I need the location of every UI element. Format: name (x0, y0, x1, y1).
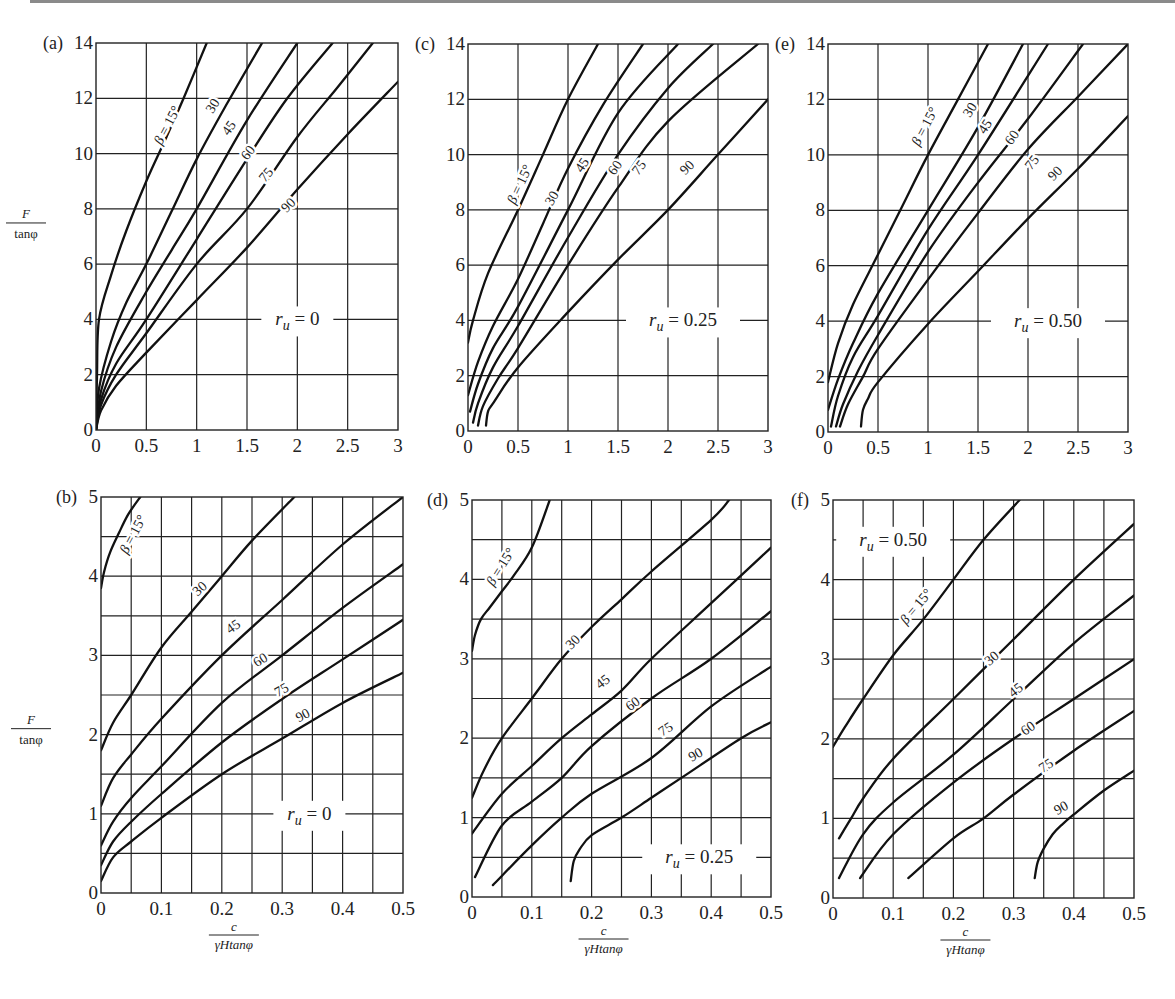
curve-beta-75 (840, 44, 1128, 427)
x-tick-label: 0.3 (270, 898, 294, 919)
curve-label: 75 (1036, 755, 1056, 775)
y-tick-label: 12 (446, 88, 465, 109)
svg-text:γHtanφ: γHtanφ (584, 941, 622, 956)
y-tick-label: 2 (456, 365, 466, 386)
curve-label: 30 (203, 96, 223, 116)
gridlines (828, 44, 1128, 432)
curve-labels: β = 15°3045607590 (483, 545, 705, 764)
y-tick-label: 4 (460, 568, 470, 589)
x-tick-label: 2 (293, 435, 303, 456)
y-tick-label: 5 (89, 486, 99, 507)
stability-charts-figure: β = 15°3045607590ru = 00246810121400.511… (0, 0, 1175, 999)
y-tick-label: 8 (456, 199, 466, 220)
x-tick-label: 2.5 (336, 435, 360, 456)
x-tick-label: 0.5 (134, 435, 158, 456)
x-axis-label: cγHtanφ (940, 924, 990, 957)
gridlines (472, 500, 771, 897)
panel-label: (d) (427, 490, 448, 511)
svg-text:tanφ: tanφ (19, 732, 42, 747)
x-tick-label: 2 (1023, 437, 1033, 458)
x-tick-label: 0.1 (881, 903, 905, 924)
y-tick-label: 2 (460, 727, 470, 748)
panel-label: (c) (415, 34, 435, 55)
svg-text:F: F (21, 206, 31, 221)
curve-label: 90 (278, 195, 299, 216)
y-tick-label: 1 (821, 807, 831, 828)
x-tick-label: 0.4 (331, 898, 355, 919)
curve-beta-90 (486, 99, 768, 425)
curve-label: 75 (629, 157, 649, 177)
x-tick-label: 0.5 (759, 902, 783, 923)
curve-label: 90 (677, 157, 698, 178)
x-tick-label: 0 (96, 898, 106, 919)
x-tick-label: 1.5 (966, 437, 990, 458)
chart-panel-c: β = 15°3045607590ru = 0.250246810121400.… (415, 33, 773, 457)
y-tick-label: 2 (89, 724, 99, 745)
curve-label: 30 (960, 100, 980, 120)
gridlines (96, 43, 398, 430)
curve-label: 90 (686, 745, 706, 765)
x-tick-label: 2.5 (706, 436, 730, 457)
curve-beta-30 (839, 524, 1134, 838)
chart-panel-a: β = 15°3045607590ru = 00246810121400.511… (6, 32, 403, 456)
x-axis-label: cγHtanφ (209, 919, 259, 952)
y-tick-label: 4 (816, 310, 826, 331)
chart-panel-b: β = 15°3045607590ru = 001234500.10.20.30… (11, 486, 415, 952)
x-tick-label: 0 (823, 437, 833, 458)
x-tick-label: 0.4 (699, 902, 723, 923)
y-tick-label: 10 (74, 143, 93, 164)
curve-beta-75 (96, 43, 373, 430)
axis-ticks: 0246810121400.511.522.53 (806, 33, 1133, 458)
panel-label: (b) (56, 487, 77, 508)
y-tick-label: 2 (84, 364, 94, 385)
curve-label: β = 15° (504, 162, 536, 207)
y-tick-label: 14 (446, 33, 466, 54)
y-tick-label: 5 (460, 489, 470, 510)
curve-label: 90 (1051, 798, 1071, 818)
curve-label: 30 (542, 188, 562, 208)
curve-label: 30 (563, 632, 584, 653)
x-tick-label: 0.2 (942, 903, 966, 924)
curve-label: 45 (1006, 680, 1026, 700)
curve-label: 45 (223, 616, 243, 636)
x-tick-label: 0.1 (150, 898, 174, 919)
x-tick-label: 0.3 (1002, 903, 1026, 924)
curve-beta-60 (473, 44, 713, 423)
x-tick-label: 0 (828, 903, 838, 924)
x-tick-label: 0 (463, 436, 473, 457)
x-tick-label: 1 (563, 436, 573, 457)
curve-label: β = 15° (151, 103, 184, 148)
svg-text:c: c (231, 919, 237, 934)
y-tick-label: 3 (460, 648, 470, 669)
svg-text:tanφ: tanφ (14, 226, 37, 241)
curve-beta-30 (468, 44, 643, 395)
y-tick-label: 14 (74, 32, 94, 53)
y-tick-label: 3 (821, 648, 831, 669)
curve-label: 60 (1018, 718, 1038, 738)
y-axis-label: Ftanφ (6, 206, 46, 241)
curve-label: 90 (1045, 163, 1066, 184)
y-axis-label: Ftanφ (11, 712, 51, 747)
y-tick-label: 2 (821, 728, 831, 749)
x-tick-label: 0.5 (506, 436, 530, 457)
x-tick-label: 3 (393, 435, 403, 456)
svg-text:c: c (601, 923, 607, 938)
y-tick-label: 1 (460, 807, 470, 828)
x-tick-label: 0.1 (520, 902, 544, 923)
curve-label: 75 (272, 680, 292, 700)
x-tick-label: 1 (192, 435, 202, 456)
chart-panel-e: β = 15°3045607590ru = 0.500246810121400.… (775, 33, 1133, 458)
axis-ticks: 0246810121400.511.522.53 (74, 32, 403, 456)
curve-beta-60 (836, 44, 1083, 427)
curve-label: 30 (190, 578, 210, 599)
curve-label: 75 (256, 165, 276, 185)
y-tick-label: 6 (816, 255, 826, 276)
svg-text:γHtanφ: γHtanφ (215, 937, 253, 952)
x-tick-label: 0.5 (391, 898, 415, 919)
curve-label: 30 (982, 648, 1002, 668)
y-tick-label: 4 (89, 565, 99, 586)
x-tick-label: 3 (1123, 437, 1133, 458)
chart-panel-d: β = 15°3045607590ru = 0.2501234500.10.20… (427, 489, 783, 956)
panel-label: (f) (791, 490, 809, 511)
x-tick-label: 1.5 (235, 435, 259, 456)
